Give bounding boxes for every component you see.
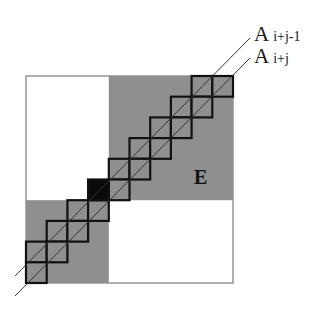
black-pivot-cell — [88, 180, 109, 201]
staircase-cell — [109, 159, 130, 180]
label-a-subscript: i+j-1 — [273, 29, 300, 44]
staircase-cell — [67, 221, 88, 242]
staircase-cell — [47, 242, 68, 263]
label-a-main: A — [254, 22, 269, 46]
staircase-cell — [26, 262, 47, 283]
staircase-cell — [67, 200, 88, 221]
label-a-i-plus-j: Ai+j — [254, 44, 289, 69]
staircase-cell — [130, 138, 151, 159]
staircase-cell — [47, 221, 68, 242]
staircase-cell — [26, 242, 47, 263]
staircase-cell — [150, 117, 171, 138]
label-a-subscript: i+j — [273, 51, 289, 66]
staircase-cell — [88, 200, 109, 221]
label-block-e: E — [194, 166, 207, 189]
label-a-main: A — [254, 44, 269, 68]
